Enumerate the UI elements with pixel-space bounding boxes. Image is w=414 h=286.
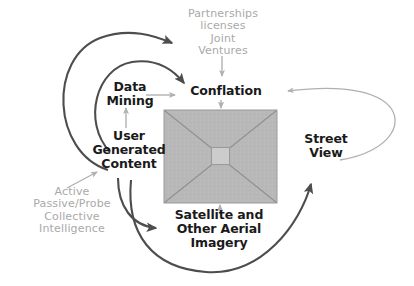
node-conflation: Conflation	[176, 84, 276, 98]
node-satellite-and-other-aerial-imagery: Satellite and Other Aerial Imagery	[160, 208, 278, 250]
node-user-generated-content: User Generated Content	[84, 129, 174, 171]
node-active-passive-collective-intelligence: Active Passive/Probe Collective Intellig…	[18, 186, 126, 235]
imagery-center-square	[212, 148, 230, 165]
imagery-box	[164, 110, 277, 203]
node-partnerships-licenses-joint-ventures: Partnerships licenses Joint Ventures	[168, 8, 278, 57]
diagram-canvas: Partnerships licenses Joint Ventures Con…	[0, 0, 414, 286]
node-data-mining: Data Mining	[96, 80, 164, 108]
node-street-view: Street View	[294, 132, 358, 160]
